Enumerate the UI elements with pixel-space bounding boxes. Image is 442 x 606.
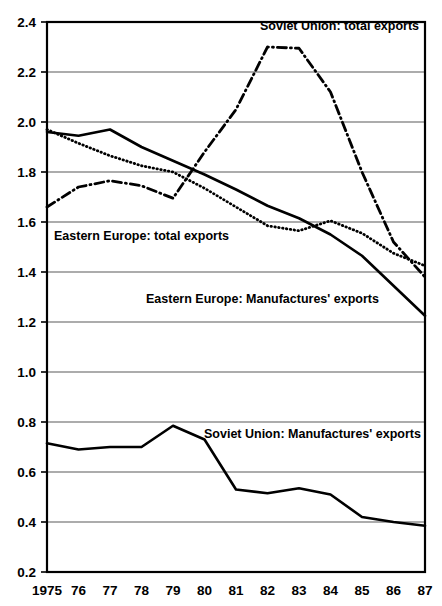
y-tick-label: 2.0: [17, 115, 36, 130]
y-axis-tick-labels: 2.42.22.01.81.61.41.21.00.80.60.40.2: [17, 15, 36, 580]
x-tick-label: 87: [417, 583, 432, 598]
x-tick-label: 78: [134, 583, 150, 598]
data-series-lines: [47, 47, 425, 526]
x-tick-label: 77: [102, 583, 117, 598]
chart-canvas: 2.42.22.01.81.61.41.21.00.80.60.40.2 197…: [0, 0, 442, 606]
y-tick-label: 0.2: [17, 565, 36, 580]
series-line: [47, 130, 425, 266]
y-tick-label: 1.4: [17, 265, 36, 280]
x-tick-label: 81: [228, 583, 244, 598]
line-chart: 2.42.22.01.81.61.41.21.00.80.60.40.2 197…: [0, 0, 442, 606]
y-tick-label: 0.6: [17, 465, 36, 480]
x-tick-label: 1975: [32, 583, 63, 598]
y-tick-label: 0.4: [17, 515, 36, 530]
y-tick-label: 2.2: [17, 65, 36, 80]
y-tick-label: 1.0: [17, 365, 36, 380]
x-tick-label: 80: [197, 583, 212, 598]
y-tick-label: 1.6: [17, 215, 36, 230]
series-annotation-label: Soviet Union: Manufactures' exports: [204, 427, 421, 441]
y-tick-label: 2.4: [17, 15, 36, 30]
x-tick-label: 85: [354, 583, 370, 598]
x-tick-label: 79: [165, 583, 180, 598]
y-tick-label: 0.8: [17, 415, 36, 430]
series-annotation-label: Eastern Europe: Manufactures' exports: [146, 292, 379, 306]
x-axis-tick-labels: 1975767778798081828384858687: [32, 583, 433, 598]
y-tick-label: 1.8: [17, 165, 36, 180]
y-tick-label: 1.2: [17, 315, 36, 330]
x-tick-label: 84: [323, 583, 339, 598]
x-tick-label: 83: [291, 583, 307, 598]
series-annotation-label: Soviet Union: total exports: [260, 19, 419, 33]
series-line: [47, 130, 425, 316]
x-tick-label: 82: [260, 583, 275, 598]
series-annotation-label: Eastern Europe: total exports: [54, 229, 229, 243]
x-tick-label: 86: [386, 583, 402, 598]
x-tick-label: 76: [71, 583, 87, 598]
series-annotations: Soviet Union: total exportsEastern Europ…: [54, 19, 421, 441]
